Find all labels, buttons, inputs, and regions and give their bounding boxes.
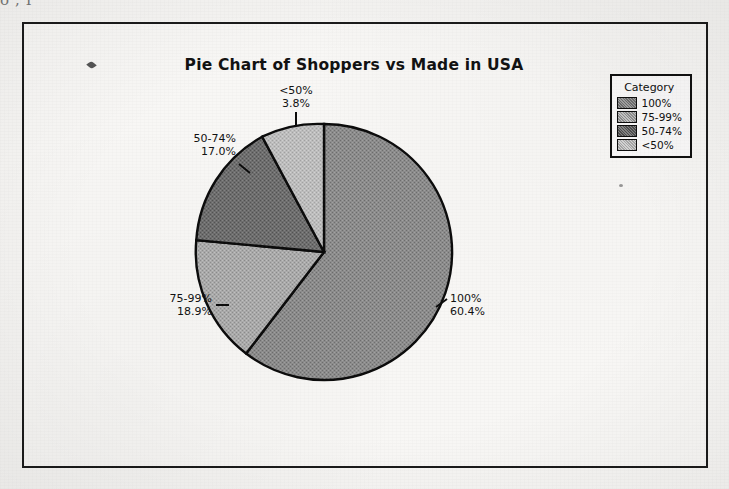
- legend-label-50-74: 50-74%: [642, 125, 683, 137]
- pie-label-50-74: 50-74% 17.0%: [142, 132, 236, 158]
- legend-item-under-50[interactable]: <50%: [617, 139, 683, 151]
- pie-label-100: 100% 60.4%: [450, 292, 485, 318]
- pie-label-under-50-value: 3.8%: [252, 97, 340, 110]
- chart-title: Pie Chart of Shoppers vs Made in USA: [144, 56, 564, 74]
- pie-label-100-value: 60.4%: [450, 305, 485, 318]
- pie-chart-svg: [24, 24, 710, 470]
- page-top-text-bleed: o , I: [0, 0, 729, 7]
- pie-label-75-99-value: 18.9%: [116, 305, 212, 318]
- pie-label-50-74-value: 17.0%: [142, 145, 236, 158]
- legend-item-50-74[interactable]: 50-74%: [617, 125, 683, 137]
- legend-item-100[interactable]: 100%: [617, 97, 683, 109]
- pie-slices: [196, 124, 452, 380]
- pie-label-100-category: 100%: [450, 292, 485, 305]
- legend-swatch-75-99: [617, 111, 637, 123]
- legend-swatch-under-50: [617, 139, 637, 151]
- chart-frame: Pie Chart of Shoppers vs Made in USA: [22, 22, 708, 468]
- pie-chart-area: [24, 24, 710, 470]
- legend-swatch-100: [617, 97, 637, 109]
- pie-label-under-50-category: <50%: [252, 84, 340, 97]
- legend: Category 100% 75-99% 50-74% <50%: [610, 74, 693, 158]
- legend-swatch-50-74: [617, 125, 637, 137]
- pie-label-75-99-category: 75-99%: [116, 292, 212, 305]
- pie-label-under-50: <50% 3.8%: [252, 84, 340, 110]
- legend-label-100: 100%: [642, 97, 672, 109]
- legend-title: Category: [617, 80, 683, 97]
- legend-label-75-99: 75-99%: [642, 111, 683, 123]
- legend-label-under-50: <50%: [642, 139, 674, 151]
- scanned-page: o , I Pie Chart of Shoppers vs Made in U…: [0, 0, 729, 489]
- pie-label-75-99: 75-99% 18.9%: [116, 292, 212, 318]
- pie-label-50-74-category: 50-74%: [142, 132, 236, 145]
- legend-item-75-99[interactable]: 75-99%: [617, 111, 683, 123]
